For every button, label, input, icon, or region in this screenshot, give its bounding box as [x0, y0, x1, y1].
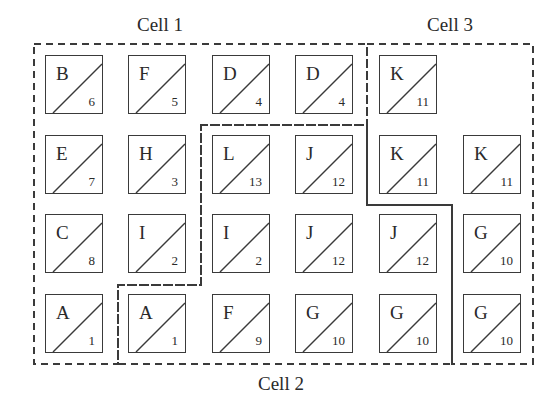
- diagonal-divider-icon: [129, 56, 187, 115]
- tile-letter: D: [223, 63, 237, 85]
- diagonal-divider-icon: [129, 295, 187, 354]
- cell-formation-diagram: Cell 1 Cell 3 Cell 2 B6F5D4D4K11E7H3L13J…: [0, 0, 559, 413]
- tile-number: 4: [256, 94, 263, 110]
- tile-letter: K: [390, 143, 404, 165]
- machine-part-tile: J12: [295, 214, 353, 273]
- machine-part-tile: A1: [45, 294, 103, 353]
- tile-number: 7: [89, 174, 96, 190]
- tile-letter: K: [474, 143, 488, 165]
- tile-number: 12: [416, 253, 429, 269]
- machine-part-tile: E7: [45, 135, 103, 194]
- tile-letter: J: [306, 143, 313, 165]
- tile-letter: G: [390, 302, 404, 324]
- diagonal-divider-icon: [129, 215, 187, 274]
- machine-part-tile: G10: [379, 294, 437, 353]
- machine-part-tile: G10: [463, 214, 521, 273]
- tile-letter: A: [139, 302, 153, 324]
- tile-letter: H: [139, 143, 153, 165]
- machine-part-tile: F5: [128, 55, 186, 114]
- diagonal-divider-icon: [213, 56, 271, 115]
- machine-part-tile: A1: [128, 294, 186, 353]
- machine-part-tile: J12: [295, 135, 353, 194]
- tile-number: 1: [89, 333, 96, 349]
- diagonal-divider-icon: [464, 215, 522, 274]
- diagonal-divider-icon: [464, 295, 522, 354]
- tile-letter: C: [56, 222, 69, 244]
- tile-number: 2: [256, 253, 263, 269]
- tile-number: 2: [172, 253, 179, 269]
- machine-part-tile: J12: [379, 214, 437, 273]
- diagonal-divider-icon: [46, 215, 104, 274]
- tile-letter: G: [474, 222, 488, 244]
- diagonal-divider-icon: [296, 56, 354, 115]
- tile-letter: I: [139, 222, 145, 244]
- tile-number: 9: [256, 333, 263, 349]
- tile-number: 12: [332, 253, 345, 269]
- machine-part-tile: K11: [463, 135, 521, 194]
- tile-letter: D: [306, 63, 320, 85]
- tile-letter: G: [306, 302, 320, 324]
- tile-number: 13: [249, 174, 262, 190]
- diagonal-divider-icon: [380, 136, 438, 195]
- tile-letter: L: [223, 143, 235, 165]
- tile-number: 10: [416, 333, 429, 349]
- machine-part-tile: C8: [45, 214, 103, 273]
- diagonal-divider-icon: [213, 136, 271, 195]
- tile-number: 8: [89, 253, 96, 269]
- tile-number: 4: [339, 94, 346, 110]
- tile-number: 10: [500, 253, 513, 269]
- diagonal-divider-icon: [464, 136, 522, 195]
- machine-part-tile: H3: [128, 135, 186, 194]
- tile-number: 1: [172, 333, 179, 349]
- machine-part-tile: K11: [379, 55, 437, 114]
- tile-letter: F: [139, 63, 150, 85]
- diagonal-divider-icon: [296, 136, 354, 195]
- machine-part-tile: F9: [212, 294, 270, 353]
- machine-part-tile: K11: [379, 135, 437, 194]
- tile-number: 11: [416, 174, 429, 190]
- diagonal-divider-icon: [46, 295, 104, 354]
- machine-part-tile: G10: [463, 294, 521, 353]
- diagonal-divider-icon: [213, 295, 271, 354]
- tile-letter: J: [390, 222, 397, 244]
- machine-part-tile: D4: [212, 55, 270, 114]
- tile-letter: A: [56, 302, 70, 324]
- diagonal-divider-icon: [129, 136, 187, 195]
- diagonal-divider-icon: [380, 215, 438, 274]
- machine-part-tile: I2: [128, 214, 186, 273]
- tile-letter: G: [474, 302, 488, 324]
- machine-part-tile: I2: [212, 214, 270, 273]
- diagonal-divider-icon: [213, 215, 271, 274]
- tile-number: 10: [500, 333, 513, 349]
- diagonal-divider-icon: [296, 295, 354, 354]
- tile-number: 3: [172, 174, 179, 190]
- tile-number: 11: [500, 174, 513, 190]
- tile-letter: I: [223, 222, 229, 244]
- diagonal-divider-icon: [380, 295, 438, 354]
- diagonal-divider-icon: [46, 136, 104, 195]
- tile-letter: B: [56, 63, 69, 85]
- tile-number: 5: [172, 94, 179, 110]
- tile-letter: J: [306, 222, 313, 244]
- tile-number: 12: [332, 174, 345, 190]
- diagonal-divider-icon: [380, 56, 438, 115]
- tile-letter: E: [56, 143, 68, 165]
- diagonal-divider-icon: [296, 215, 354, 274]
- machine-part-tile: D4: [295, 55, 353, 114]
- tile-number: 11: [416, 94, 429, 110]
- machine-part-tile: L13: [212, 135, 270, 194]
- diagonal-divider-icon: [46, 56, 104, 115]
- machine-part-tile: B6: [45, 55, 103, 114]
- tile-letter: F: [223, 302, 234, 324]
- tile-letter: K: [390, 63, 404, 85]
- tile-number: 10: [332, 333, 345, 349]
- tile-number: 6: [89, 94, 96, 110]
- machine-part-tile: G10: [295, 294, 353, 353]
